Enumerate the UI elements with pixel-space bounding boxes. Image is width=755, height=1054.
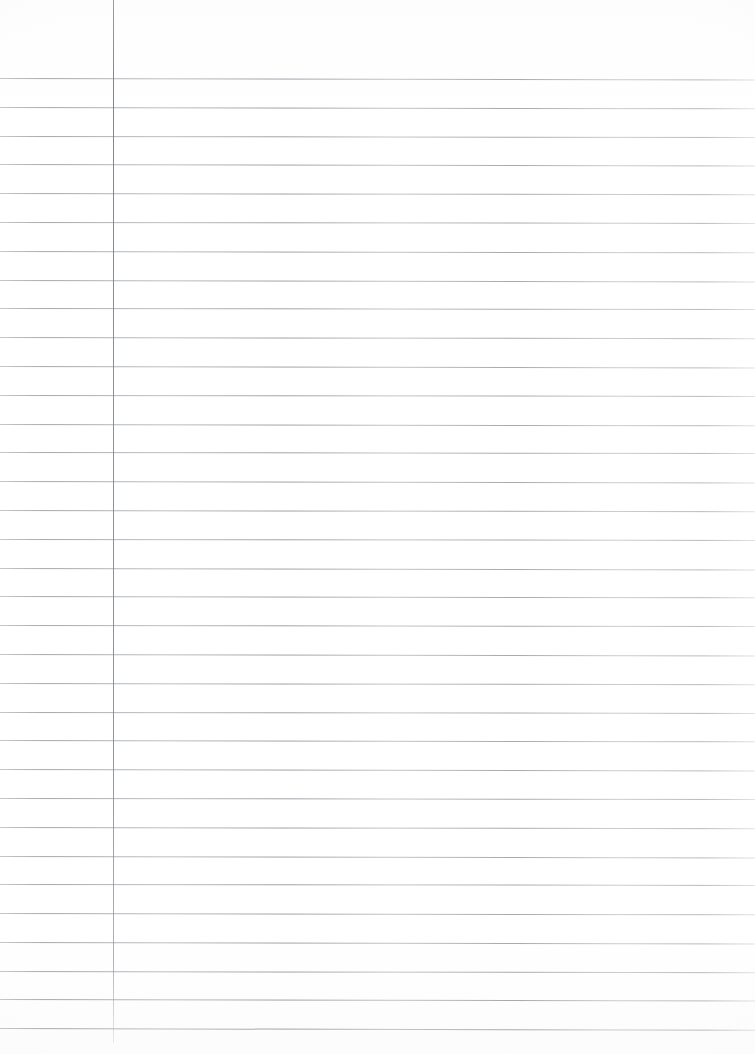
left-margin-line [113, 0, 114, 1043]
page-text-content [121, 56, 741, 1036]
notebook-page [0, 0, 755, 1054]
